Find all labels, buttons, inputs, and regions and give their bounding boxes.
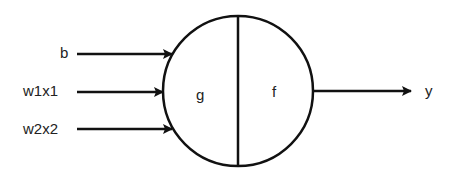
input-label-bias: b (60, 44, 68, 61)
neuron-label-g: g (196, 86, 204, 103)
neuron-label-f: f (272, 83, 277, 100)
input-label-w2x2: w2x2 (22, 120, 58, 137)
neuron-diagram: b w1x1 w2x2 g f y (0, 0, 454, 179)
output-label-y: y (425, 82, 433, 99)
input-label-w1x1: w1x1 (22, 82, 58, 99)
